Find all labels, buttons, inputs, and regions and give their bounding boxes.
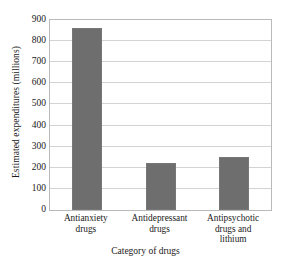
y-tick-label: 700 — [22, 56, 46, 66]
x-tick-line: drugs — [49, 224, 123, 235]
y-tick-label: 100 — [22, 183, 46, 193]
x-axis-title: Category of drugs — [0, 246, 291, 256]
y-tick-label: 400 — [22, 120, 46, 130]
x-tick-line: Antianxiety — [49, 213, 123, 224]
x-tick-line: lithium — [196, 234, 270, 245]
x-tick-line: drugs and — [196, 224, 270, 235]
y-tick-label: 600 — [22, 77, 46, 87]
x-tick-line: Antidepressant — [123, 213, 197, 224]
bar — [219, 157, 249, 210]
x-tick-label: Antidepressantdrugs — [123, 213, 197, 234]
bar — [72, 28, 102, 210]
y-tick-label: 200 — [22, 162, 46, 172]
y-axis-tick-labels: 9008007006005004003002001000 — [22, 14, 46, 211]
x-tick-line: Antipsychotic — [196, 213, 270, 224]
x-tick-label: Antipsychoticdrugs andlithium — [196, 213, 270, 245]
y-tick-label: 300 — [22, 141, 46, 151]
plot-area — [49, 19, 272, 211]
y-tick-label: 0 — [22, 204, 46, 214]
y-tick-label: 900 — [22, 14, 46, 24]
x-tick-line: drugs — [123, 224, 197, 235]
x-tick-label: Antianxietydrugs — [49, 213, 123, 234]
y-tick-label: 800 — [22, 35, 46, 45]
y-tick-label: 500 — [22, 98, 46, 108]
bar-chart-figure: Estimated expenditures (millions) 900800… — [0, 0, 291, 263]
bar — [146, 163, 176, 211]
